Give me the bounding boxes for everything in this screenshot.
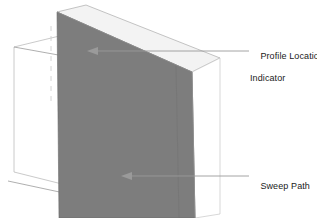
technical-illustration-figure: Profile Location Indicator Sweep Path <box>0 0 317 218</box>
callout-label-profile-location: Profile Location Indicator <box>250 40 317 106</box>
callout-label-profile-location-line1: Profile Location <box>260 51 317 61</box>
callout-label-profile-location-line2: Indicator <box>250 73 317 84</box>
callout-label-sweep-path: Sweep Path <box>250 170 310 203</box>
swept-solid-side-face <box>192 58 220 218</box>
callout-label-sweep-path-line1: Sweep Path <box>260 181 310 191</box>
